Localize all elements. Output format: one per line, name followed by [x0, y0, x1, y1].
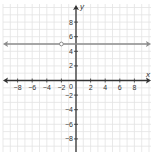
y-axis-label: y [79, 2, 85, 11]
y-tick-label: 8 [69, 19, 73, 26]
x-tick-label: 4 [103, 84, 107, 91]
x-tick-label: −2 [57, 84, 65, 91]
y-tick-label: −4 [65, 106, 73, 113]
coordinate-plane: −8−6−4−224688642−2−4−6−8 x y 0 [0, 0, 154, 152]
y-tick-label: 6 [69, 33, 73, 40]
y-tick-label: −6 [65, 121, 73, 128]
grid-lines [3, 4, 151, 152]
open-circle-point [60, 42, 64, 46]
y-tick-label: −8 [65, 135, 73, 142]
x-axis-label: x [145, 70, 151, 79]
y-tick-label: 4 [69, 48, 73, 55]
y-tick-label: −2 [65, 92, 73, 99]
origin-label: 0 [69, 83, 73, 90]
x-tick-label: −4 [43, 84, 51, 91]
y-tick-label: 2 [69, 62, 73, 69]
x-tick-label: −6 [28, 84, 36, 91]
x-tick-label: 6 [118, 84, 122, 91]
x-tick-label: 8 [132, 84, 136, 91]
x-tick-label: −8 [14, 84, 22, 91]
x-tick-label: 2 [89, 84, 93, 91]
